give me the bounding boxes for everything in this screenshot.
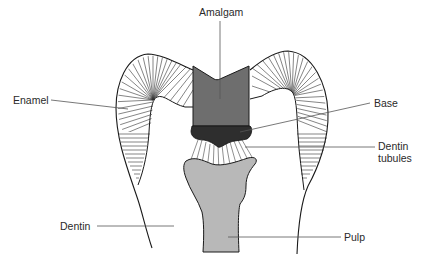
base-layer [191,126,252,147]
tooth-outer-outline [116,54,193,248]
leader-base [240,103,370,132]
tooth-diagram: Amalgam Enamel Base Dentin tubules Denti… [0,0,421,264]
label-dentin: Dentin [60,220,90,232]
enamel-left-hatching [110,45,193,140]
pulp-chamber [184,157,257,252]
label-dentin-tubules-line2: tubules [378,152,412,164]
amalgam-filling [193,66,249,126]
label-pulp: Pulp [344,231,365,243]
label-enamel: Enamel [13,94,49,106]
label-base: Base [374,97,398,109]
label-amalgam: Amalgam [199,6,243,18]
enamel-right-hatching [252,43,335,135]
dej-right [250,88,304,190]
label-dentin-tubules-line1: Dentin [378,140,408,152]
